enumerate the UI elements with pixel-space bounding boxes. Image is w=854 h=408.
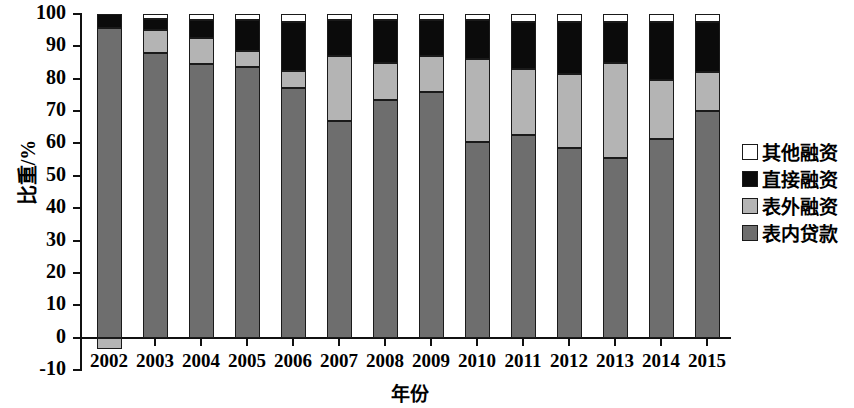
bar-segment[interactable] bbox=[235, 67, 260, 337]
bar-segment[interactable] bbox=[327, 14, 352, 20]
y-axis-tick-label: 40 bbox=[10, 195, 66, 218]
bar-segment[interactable] bbox=[189, 38, 214, 64]
bar-segment[interactable] bbox=[235, 14, 260, 20]
bar-segment[interactable] bbox=[327, 20, 352, 56]
bar-segment[interactable] bbox=[373, 63, 398, 100]
stacked-bar-chart: 比重/% 1009080706050403020100-10 200220032… bbox=[0, 0, 854, 408]
bar-segment[interactable] bbox=[465, 20, 490, 59]
x-axis-title: 年份 bbox=[355, 379, 465, 406]
bar-segment[interactable] bbox=[281, 71, 306, 89]
bar-group[interactable] bbox=[649, 14, 674, 370]
bar-segment[interactable] bbox=[189, 14, 214, 20]
bar-segment[interactable] bbox=[695, 22, 720, 72]
bar-segment[interactable] bbox=[327, 121, 352, 338]
bar-segment[interactable] bbox=[511, 22, 536, 69]
y-axis-tick-label: 20 bbox=[10, 260, 66, 283]
bar-group[interactable] bbox=[327, 14, 352, 370]
bar-segment[interactable] bbox=[189, 64, 214, 337]
bar-segment[interactable] bbox=[695, 111, 720, 338]
bar-segment[interactable] bbox=[143, 19, 168, 30]
bar-segment[interactable] bbox=[603, 22, 628, 62]
y-axis-tick-label: -10 bbox=[10, 357, 66, 380]
y-axis-tick-label: 0 bbox=[10, 325, 66, 348]
lightgray-swatch-icon bbox=[742, 198, 758, 214]
bar-segment[interactable] bbox=[695, 72, 720, 111]
bar-segment[interactable] bbox=[465, 14, 490, 20]
bar-segment[interactable] bbox=[97, 28, 122, 338]
legend-item-label: 直接融资 bbox=[762, 165, 838, 192]
legend-item[interactable]: 直接融资 bbox=[742, 165, 854, 192]
bar-group[interactable] bbox=[373, 14, 398, 370]
bar-segment[interactable] bbox=[235, 51, 260, 67]
bar-group[interactable] bbox=[143, 14, 168, 370]
y-axis-tick-label: 50 bbox=[10, 163, 66, 186]
bar-segment[interactable] bbox=[649, 80, 674, 138]
bar-segment[interactable] bbox=[373, 100, 398, 338]
bar-group[interactable] bbox=[603, 14, 628, 370]
bar-segment[interactable] bbox=[373, 14, 398, 20]
bar-segment[interactable] bbox=[603, 158, 628, 338]
y-axis-tick-label: 90 bbox=[10, 33, 66, 56]
y-axis-tick-mark bbox=[73, 337, 81, 339]
bar-segment[interactable] bbox=[97, 14, 122, 28]
bar-segment[interactable] bbox=[557, 74, 582, 148]
legend-item-label: 表内贷款 bbox=[762, 219, 838, 246]
y-axis-tick-mark bbox=[73, 45, 81, 47]
bar-group[interactable] bbox=[97, 14, 122, 370]
bar-segment[interactable] bbox=[373, 20, 398, 62]
bar-segment[interactable] bbox=[603, 14, 628, 22]
bar-segment[interactable] bbox=[557, 22, 582, 74]
bar-segment[interactable] bbox=[189, 20, 214, 38]
legend-item[interactable]: 表内贷款 bbox=[742, 219, 854, 246]
bar-segment[interactable] bbox=[143, 53, 168, 338]
y-axis-tick-mark bbox=[73, 13, 81, 15]
y-axis-tick-label: 30 bbox=[10, 228, 66, 251]
bar-segment[interactable] bbox=[649, 139, 674, 338]
bar-group[interactable] bbox=[511, 14, 536, 370]
bar-segment[interactable] bbox=[511, 135, 536, 337]
white-swatch-icon bbox=[742, 144, 758, 160]
bar-group[interactable] bbox=[557, 14, 582, 370]
bar-segment[interactable] bbox=[465, 59, 490, 142]
legend-item-label: 其他融资 bbox=[762, 138, 838, 165]
bar-group[interactable] bbox=[189, 14, 214, 370]
y-axis-tick-mark bbox=[73, 142, 81, 144]
bar-segment[interactable] bbox=[419, 92, 444, 338]
bar-segment[interactable] bbox=[603, 63, 628, 158]
bar-segment[interactable] bbox=[419, 56, 444, 92]
bar-segment[interactable] bbox=[281, 88, 306, 337]
bar-segment[interactable] bbox=[143, 14, 168, 19]
y-axis-tick-mark bbox=[73, 78, 81, 80]
y-axis-tick-label: 100 bbox=[10, 1, 66, 24]
bar-group[interactable] bbox=[695, 14, 720, 370]
bar-segment[interactable] bbox=[465, 142, 490, 338]
legend-item[interactable]: 其他融资 bbox=[742, 138, 854, 165]
bar-group[interactable] bbox=[235, 14, 260, 370]
y-axis-tick-mark bbox=[73, 240, 81, 242]
bar-segment[interactable] bbox=[419, 14, 444, 20]
bar-segment[interactable] bbox=[695, 14, 720, 22]
legend-item[interactable]: 表外融资 bbox=[742, 192, 854, 219]
bar-segment[interactable] bbox=[649, 14, 674, 22]
bar-group[interactable] bbox=[281, 14, 306, 370]
bar-segment[interactable] bbox=[511, 69, 536, 135]
bar-group[interactable] bbox=[465, 14, 490, 370]
bar-segment[interactable] bbox=[281, 14, 306, 22]
bar-segment[interactable] bbox=[235, 20, 260, 51]
bar-segment[interactable] bbox=[649, 22, 674, 80]
y-axis-tick-label: 10 bbox=[10, 292, 66, 315]
bar-segment[interactable] bbox=[97, 338, 122, 349]
y-axis-line bbox=[80, 13, 82, 371]
bar-segment[interactable] bbox=[327, 56, 352, 121]
plot-area bbox=[86, 14, 730, 370]
y-axis-tick-label: 60 bbox=[10, 130, 66, 153]
darkgray-swatch-icon bbox=[742, 225, 758, 241]
bar-segment[interactable] bbox=[143, 30, 168, 53]
bar-group[interactable] bbox=[419, 14, 444, 370]
bar-segment[interactable] bbox=[281, 22, 306, 71]
bar-segment[interactable] bbox=[419, 20, 444, 56]
bar-segment[interactable] bbox=[511, 14, 536, 22]
y-axis-tick-mark bbox=[73, 175, 81, 177]
bar-segment[interactable] bbox=[557, 148, 582, 337]
bar-segment[interactable] bbox=[557, 14, 582, 22]
